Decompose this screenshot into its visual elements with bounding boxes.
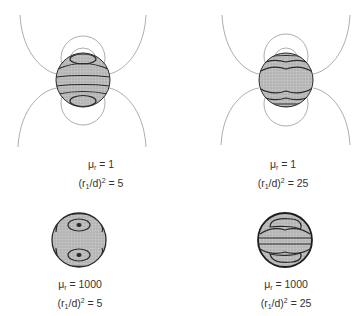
label-c: μr = 1000 (r1/d)2 = 5 bbox=[58, 278, 103, 313]
contour-c-6 bbox=[77, 254, 81, 257]
label-b: μr = 1 (r1/d)2 = 25 bbox=[258, 158, 309, 193]
ratio-line-b: (r1/d)2 = 25 bbox=[258, 174, 309, 193]
ratio-line-d: (r1/d)2 = 25 bbox=[261, 294, 312, 313]
sphere-d bbox=[258, 213, 312, 267]
sphere-a bbox=[56, 53, 110, 107]
ratio-line-c: (r1/d)2 = 5 bbox=[58, 294, 103, 313]
sphere-c bbox=[52, 213, 106, 267]
panel-a bbox=[18, 15, 146, 147]
mu-r-line-a: μr = 1 bbox=[79, 158, 124, 174]
mu-r-line-c: μr = 1000 bbox=[58, 278, 103, 294]
contour-c-3 bbox=[77, 224, 81, 227]
panel-b bbox=[221, 15, 350, 145]
mu-r-line-b: μr = 1 bbox=[258, 158, 309, 174]
mu-r-line-d: μr = 1000 bbox=[261, 278, 312, 294]
ratio-line-a: (r1/d)2 = 5 bbox=[79, 174, 124, 193]
label-d: μr = 1000 (r1/d)2 = 25 bbox=[261, 278, 312, 313]
panel-d bbox=[258, 213, 312, 267]
figure-canvas bbox=[0, 0, 364, 316]
panel-c bbox=[52, 213, 106, 267]
label-a: μr = 1 (r1/d)2 = 5 bbox=[79, 158, 124, 193]
